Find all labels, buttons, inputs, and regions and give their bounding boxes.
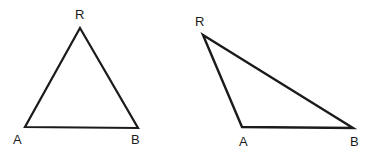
vertex-label-left-a: A bbox=[13, 133, 22, 146]
right-triangle-outline bbox=[203, 35, 353, 128]
vertex-label-left-b: B bbox=[131, 133, 140, 146]
vertex-label-left-r: R bbox=[75, 8, 84, 21]
left-triangle-outline bbox=[25, 28, 138, 128]
vertex-label-right-b: B bbox=[350, 135, 359, 148]
figure-canvas: R A B R A B bbox=[0, 0, 380, 158]
vertex-label-right-r: R bbox=[195, 15, 204, 28]
vertex-label-right-a: A bbox=[239, 135, 248, 148]
triangles-drawing bbox=[0, 0, 380, 158]
